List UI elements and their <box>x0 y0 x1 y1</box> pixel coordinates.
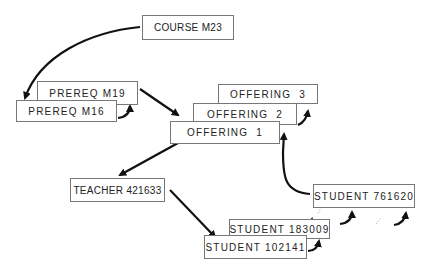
edge-prereq-to-offering <box>140 89 178 115</box>
edge-student-to-offering <box>283 134 310 194</box>
edge-teacher-to-student <box>170 190 215 237</box>
node-teacher: TEACHER 421633 <box>70 178 165 202</box>
stack-arrow-student-far <box>394 213 406 225</box>
node-offering-3: OFFERING 3 <box>218 84 318 104</box>
node-prereq-m16: PREREQ M16 <box>16 100 117 122</box>
edge-offering-to-teacher <box>120 143 178 175</box>
node-offering-1: OFFERING 1 <box>170 121 280 144</box>
node-student-102141: STUDENT 102141 <box>204 235 307 259</box>
stack-arrow-offering <box>298 111 308 125</box>
dotted-mark <box>376 218 381 224</box>
node-student-761620: STUDENT 761620 <box>313 184 415 208</box>
node-course: COURSE M23 <box>142 15 234 40</box>
stack-arrow-student-761620 <box>340 212 352 224</box>
stack-arrow-student-102141 <box>308 241 319 251</box>
stack-arrow-prereq <box>118 106 130 118</box>
